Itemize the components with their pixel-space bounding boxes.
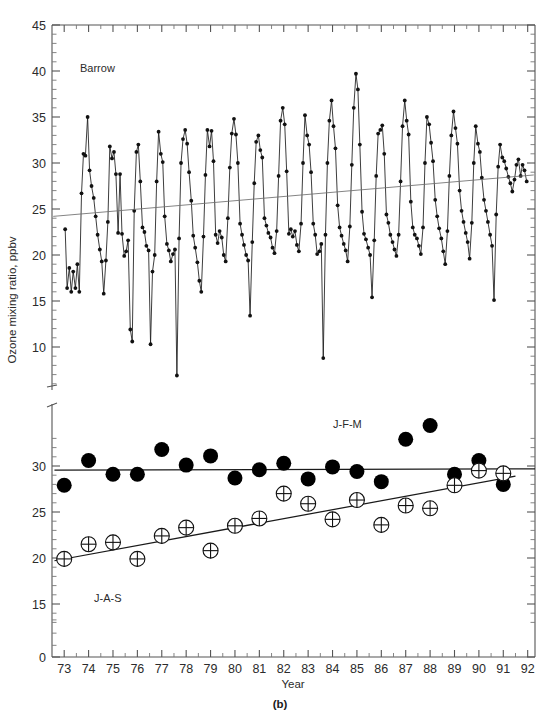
data-point-monthly [338,226,342,230]
data-point-monthly [96,233,100,237]
data-point-monthly [104,259,108,263]
data-point-jfm [105,467,120,482]
data-point-monthly [446,229,450,233]
data-point-monthly [411,226,415,230]
data-point-monthly [195,260,199,264]
data-point-monthly [181,137,185,141]
data-point-monthly [399,180,403,184]
data-point-monthly [319,242,323,246]
data-point-monthly [98,248,102,252]
data-point-monthly [246,259,250,263]
data-point-jfm [325,459,340,474]
data-point-monthly [230,132,234,136]
data-point-monthly [291,235,295,239]
data-point-monthly [364,237,368,241]
data-point-monthly [413,233,417,237]
y-tick-label-lower: 0 [39,651,46,665]
data-point-monthly [301,161,305,165]
data-point-monthly [263,216,267,220]
data-point-monthly [266,231,270,235]
data-point-monthly [277,174,281,178]
data-point-jas [105,535,120,550]
data-point-monthly [423,161,427,165]
data-point-monthly [124,249,128,253]
data-point-monthly [183,128,187,132]
data-point-monthly [74,286,78,290]
data-point-monthly [173,248,177,252]
data-point-monthly [521,163,525,167]
data-point-monthly [71,270,75,274]
data-point-monthly [340,234,344,238]
data-point-monthly [468,257,472,261]
x-tick-label: 79 [204,662,218,676]
data-point-monthly [502,159,506,163]
data-point-monthly [354,72,358,76]
annotation-jas: J-A-S [94,592,122,604]
data-point-monthly [120,232,124,236]
x-axis-title: Year [281,678,304,690]
data-point-monthly [421,226,425,230]
x-tick-label: 82 [277,662,291,676]
data-point-monthly [165,242,169,246]
x-tick-label: 78 [179,662,193,676]
data-point-monthly [356,88,360,92]
data-point-jas [496,466,511,481]
data-point-monthly [462,220,466,224]
data-point-monthly [252,181,256,185]
data-point-jfm [398,432,413,447]
data-point-monthly [478,150,482,154]
data-point-monthly [244,253,248,257]
data-point-jas [374,517,389,532]
data-point-monthly [80,191,84,195]
data-point-monthly [285,169,289,173]
x-tick-label: 88 [423,662,437,676]
data-point-monthly [86,115,90,119]
data-point-monthly [212,159,216,163]
data-point-monthly [344,249,348,253]
x-tick-label: 90 [472,662,486,676]
data-point-monthly [273,251,277,255]
data-point-monthly [90,184,94,188]
data-point-jfm [227,470,242,485]
data-point-monthly [179,161,183,165]
data-point-monthly [403,99,407,103]
data-point-monthly [482,198,486,202]
data-point-jfm [374,474,389,489]
x-tick-label: 91 [496,662,510,676]
data-point-monthly [388,233,392,237]
data-point-monthly [236,161,240,165]
data-point-monthly [202,235,206,239]
data-point-monthly [145,244,149,248]
data-point-jas [81,537,96,552]
data-point-monthly [415,237,419,241]
data-point-monthly [191,234,195,238]
annotation-barrow: Barrow [80,62,115,74]
data-point-monthly [429,141,433,145]
data-point-monthly [110,157,114,161]
data-point-jas [423,501,438,516]
data-point-monthly [281,106,285,110]
data-point-monthly [167,249,171,253]
data-point-monthly [449,134,453,138]
data-point-monthly [279,119,283,123]
data-point-monthly [238,222,242,226]
data-point-monthly [220,236,224,240]
data-point-monthly [254,140,258,144]
data-point-monthly [311,222,315,226]
data-point-monthly [443,262,447,266]
data-point-monthly [303,113,307,117]
data-point-monthly [100,260,104,264]
data-point-monthly [510,190,514,194]
data-point-monthly [350,163,354,167]
data-point-monthly [147,249,151,253]
x-tick-label: 81 [252,662,266,676]
data-point-monthly [189,199,193,203]
x-tick-label: 80 [228,662,242,676]
data-point-monthly [454,126,458,130]
data-point-jas [325,512,340,527]
data-point-monthly [317,249,321,253]
data-point-monthly [67,266,71,270]
data-point-monthly [88,168,92,172]
data-point-monthly [488,233,492,237]
data-point-jfm [276,456,291,471]
